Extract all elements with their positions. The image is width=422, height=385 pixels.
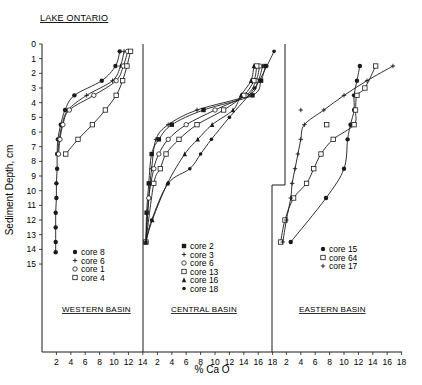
lake-ontario-cao-depth-chart: LAKE ONTARIO 0123456789101112131415 Sedi… [0,0,422,385]
marker-open-square [363,86,367,90]
marker-open-square [195,122,199,126]
marker-filled-circle [72,93,76,97]
x-tick-label: 4 [68,357,73,367]
y-axis: 0123456789101112131415 [27,39,42,352]
marker-asterisk [182,287,186,291]
marker-filled-circle [118,49,122,53]
marker-filled-circle [53,211,57,215]
marker-open-square [304,181,308,185]
x-tick-label: 8 [327,357,332,367]
series-core-17 [281,64,396,244]
marker-open-circle [184,122,188,126]
marker-filled-circle [289,240,293,244]
series-line [146,66,263,242]
x-tick-label: 6 [184,357,189,367]
marker-filled-circle [321,247,325,251]
marker-open-square [325,122,329,126]
marker-open-circle [67,108,71,112]
marker-open-circle [166,137,170,141]
marker-open-circle [92,93,96,97]
y-tick-label: 5 [31,112,36,122]
western-basin-label: WESTERN BASIN [62,305,131,314]
marker-open-square [73,275,77,279]
x-tick-label: 2 [155,357,160,367]
x-tick-label: 18 [268,357,278,367]
y-tick-label: 15 [27,259,37,269]
marker-asterisk [272,50,276,54]
series-core-2 [144,64,268,244]
marker-open-square [221,108,225,112]
marker-filled-circle [53,250,57,254]
series-core-64 [278,64,377,244]
eastern-basin-label: EASTERN BASIN [299,305,366,314]
y-tick-label: 13 [27,230,37,240]
marker-asterisk [210,138,214,142]
x-tick-label: 16 [253,357,263,367]
x-tick-label: 6 [313,357,318,367]
marker-asterisk [188,167,192,171]
marker-triangle [182,277,186,282]
x-tick-label: 14 [368,357,378,367]
marker-open-circle [182,261,186,265]
marker-filled-circle [345,137,349,141]
panel-divider-central-east [272,44,285,352]
marker-open-square [373,64,377,68]
x-tick-label: 14 [239,357,249,367]
panel-central-basin [144,50,276,245]
y-tick-label: 8 [31,156,36,166]
panel-western-basin [53,49,132,254]
series-line [291,66,360,242]
chart-title: LAKE ONTARIO [40,13,108,23]
y-tick-label: 11 [27,200,36,210]
marker-open-square [355,93,359,97]
y-tick-label: 12 [27,215,37,225]
series-core-3 [144,64,265,244]
marker-open-square [128,49,132,53]
x-tick-label: 18 [397,357,407,367]
marker-open-square [152,181,156,185]
x-axis-label: % Ca O [194,364,229,375]
x-tick-label: 12 [354,357,364,367]
legend-label: core 4 [81,273,105,283]
marker-open-square [103,108,107,112]
x-tick-label: 12 [124,357,134,367]
panel-eastern-basin [278,64,395,244]
marker-asterisk [150,218,154,222]
marker-asterisk [228,116,232,120]
x-tick-label: 8 [97,357,102,367]
central-basin-label: CENTRAL BASIN [171,305,237,314]
marker-filled-circle [53,240,57,244]
marker-filled-circle [324,196,328,200]
marker-open-square [353,108,357,112]
marker-open-circle [73,267,77,271]
marker-open-square [158,166,162,170]
marker-filled-circle [53,225,57,229]
legend-label: core 17 [329,261,358,271]
legend-eastern-basin: core 15core 64core 17 [321,244,358,271]
marker-open-circle [152,166,156,170]
marker-filled-circle [54,196,58,200]
x-tick-label: 10 [109,357,119,367]
data-series [53,49,395,254]
marker-open-square [76,137,80,141]
marker-open-circle [114,78,118,82]
marker-open-square [312,166,316,170]
marker-open-square [120,78,124,82]
marker-open-square [90,122,94,126]
x-tick-label: 2 [284,357,289,367]
y-tick-label: 3 [31,83,36,93]
marker-asterisk [253,86,257,90]
y-tick-label: 4 [31,98,36,108]
y-tick-label: 7 [31,142,36,152]
marker-open-square [331,137,335,141]
marker-open-square [182,269,186,273]
series-core-1 [56,49,130,156]
marker-asterisk [144,240,148,244]
x-tick-label: 4 [298,357,303,367]
series-line [281,66,376,242]
marker-open-circle [157,152,161,156]
marker-asterisk [166,182,170,186]
marker-open-square [177,137,181,141]
x-tick-label: 6 [83,357,88,367]
marker-filled-circle [358,64,362,68]
